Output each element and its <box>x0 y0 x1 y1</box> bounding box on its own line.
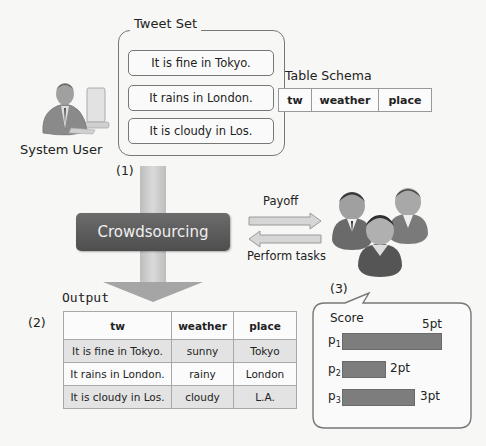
score-value-p3: 3pt <box>420 389 440 403</box>
table-schema: tw weather place <box>278 88 432 112</box>
table-header-row: tw weather place <box>64 312 297 340</box>
table-schema-title: Table Schema <box>285 68 372 83</box>
system-user-label: System User <box>20 142 102 157</box>
cell-weather: sunny <box>172 340 234 363</box>
score-bar-p1 <box>342 333 442 350</box>
score-title: Score <box>330 311 364 325</box>
system-user-icon <box>35 78 115 140</box>
step-1-label: (1) <box>116 163 134 178</box>
cell-weather: cloudy <box>172 386 234 409</box>
schema-column: place <box>379 89 432 112</box>
table-row: It is fine in Tokyo. sunny Tokyo <box>64 340 297 363</box>
score-value-p2: 2pt <box>390 361 410 375</box>
crowdsourcing-box: Crowdsourcing <box>76 213 230 251</box>
crowd-workers-icon <box>330 184 440 279</box>
schema-column: weather <box>312 89 379 112</box>
cell-weather: rainy <box>172 363 234 386</box>
column-header: weather <box>172 312 234 340</box>
tweet-set-title: Tweet Set <box>130 16 201 31</box>
step-2-label: (2) <box>28 315 46 330</box>
column-header: place <box>234 312 297 340</box>
cell-place: Tokyo <box>234 340 297 363</box>
perform-tasks-label: Perform tasks <box>247 249 326 263</box>
flow-arrow-head <box>103 282 203 302</box>
table-row: It is cloudy in Los. cloudy L.A. <box>64 386 297 409</box>
output-table: tw weather place It is fine in Tokyo. su… <box>63 311 297 409</box>
score-bar-p3 <box>342 389 415 406</box>
worker-p1-label: p1 <box>328 333 341 349</box>
cell-tw: It rains in London. <box>64 363 172 386</box>
worker-p3-label: p3 <box>328 389 341 405</box>
payoff-label: Payoff <box>263 194 298 208</box>
cell-tw: It is cloudy in Los. <box>64 386 172 409</box>
tweet-item: It rains in London. <box>128 85 274 111</box>
score-value-p1: 5pt <box>422 317 442 331</box>
output-title: Output <box>62 290 109 305</box>
tweet-item: It is fine in Tokyo. <box>128 50 274 76</box>
cell-place: London <box>234 363 297 386</box>
schema-column: tw <box>279 89 312 112</box>
tweet-item: It is cloudy in Los. <box>128 118 274 144</box>
cell-tw: It is fine in Tokyo. <box>64 340 172 363</box>
worker-p2-label: p2 <box>328 362 341 378</box>
cell-place: L.A. <box>234 386 297 409</box>
score-bar-p2 <box>342 361 386 378</box>
table-row: It rains in London. rainy London <box>64 363 297 386</box>
column-header: tw <box>64 312 172 340</box>
